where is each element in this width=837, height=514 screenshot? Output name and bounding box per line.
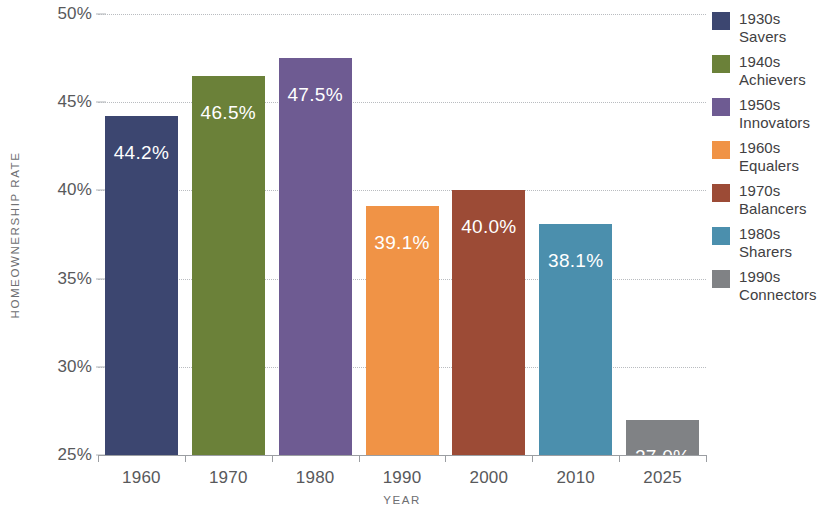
x-axis-line bbox=[98, 455, 706, 456]
legend-cohort: Sharers bbox=[739, 243, 792, 261]
x-tick-mark-1 bbox=[185, 455, 186, 462]
x-tick-label-1960: 1960 bbox=[122, 468, 161, 488]
bar-2000[interactable]: 40.0% bbox=[452, 190, 525, 455]
x-tick-mark-7 bbox=[706, 455, 707, 462]
bar-1990[interactable]: 39.1% bbox=[366, 206, 439, 455]
legend-item-1960s-equalers[interactable]: 1960sEqualers bbox=[712, 139, 837, 175]
legend-decade: 1930s bbox=[739, 10, 786, 28]
legend-cohort: Connectors bbox=[739, 286, 817, 304]
y-tick-label-35: 35% bbox=[34, 269, 92, 289]
legend-cohort: Equalers bbox=[739, 157, 799, 175]
legend-label: 1970sBalancers bbox=[739, 182, 807, 218]
x-tick-mark-3 bbox=[359, 455, 360, 462]
bar-value-label-1960: 44.2% bbox=[105, 142, 178, 164]
y-tick-label-40: 40% bbox=[34, 180, 92, 200]
bar-value-label-2010: 38.1% bbox=[539, 250, 612, 272]
legend-label: 1980sSharers bbox=[739, 225, 792, 261]
legend-decade: 1980s bbox=[739, 225, 792, 243]
legend-item-1970s-balancers[interactable]: 1970sBalancers bbox=[712, 182, 837, 218]
legend-cohort: Balancers bbox=[739, 200, 807, 218]
bar-value-label-2000: 40.0% bbox=[452, 216, 525, 238]
y-axis-title: HOMEOWNERSHIP RATE bbox=[2, 0, 28, 470]
x-tick-label-1980: 1980 bbox=[296, 468, 335, 488]
legend-swatch-icon-1990s bbox=[712, 270, 730, 288]
legend: 1930sSavers1940sAchievers1950sInnovators… bbox=[712, 10, 837, 311]
legend-decade: 1940s bbox=[739, 53, 806, 71]
legend-swatch-icon-1950s bbox=[712, 98, 730, 116]
legend-decade: 1960s bbox=[739, 139, 799, 157]
x-tick-mark-4 bbox=[445, 455, 446, 462]
legend-label: 1990sConnectors bbox=[739, 268, 817, 304]
legend-label: 1950sInnovators bbox=[739, 96, 810, 132]
legend-item-1990s-connectors[interactable]: 1990sConnectors bbox=[712, 268, 837, 304]
x-tick-label-2000: 2000 bbox=[470, 468, 509, 488]
y-tick-label-30: 30% bbox=[34, 357, 92, 377]
legend-item-1930s-savers[interactable]: 1930sSavers bbox=[712, 10, 837, 46]
y-tick-label-45: 45% bbox=[34, 92, 92, 112]
bar-2025[interactable]: 27.0% bbox=[626, 420, 699, 455]
y-axis-title-text: HOMEOWNERSHIP RATE bbox=[9, 151, 21, 318]
y-axis-ticks: 25%30%35%40%45%50% bbox=[30, 14, 92, 455]
bar-1980[interactable]: 47.5% bbox=[279, 58, 352, 455]
bar-value-label-1970: 46.5% bbox=[192, 102, 265, 124]
bars-layer: 44.2%46.5%47.5%39.1%40.0%38.1%27.0% bbox=[98, 14, 706, 455]
plot-area: 44.2%46.5%47.5%39.1%40.0%38.1%27.0% bbox=[98, 14, 706, 455]
x-axis-title: YEAR bbox=[98, 494, 706, 506]
x-tick-label-1990: 1990 bbox=[383, 468, 422, 488]
legend-item-1940s-achievers[interactable]: 1940sAchievers bbox=[712, 53, 837, 89]
x-tick-mark-5 bbox=[532, 455, 533, 462]
legend-cohort: Achievers bbox=[739, 71, 806, 89]
legend-item-1950s-innovators[interactable]: 1950sInnovators bbox=[712, 96, 837, 132]
legend-cohort: Savers bbox=[739, 28, 786, 46]
x-tick-mark-0 bbox=[98, 455, 99, 462]
legend-cohort: Innovators bbox=[739, 114, 810, 132]
homeownership-rate-bar-chart: HOMEOWNERSHIP RATE 25%30%35%40%45%50% 44… bbox=[0, 0, 837, 514]
legend-swatch-icon-1980s bbox=[712, 227, 730, 245]
legend-item-1980s-sharers[interactable]: 1980sSharers bbox=[712, 225, 837, 261]
legend-swatch-icon-1940s bbox=[712, 55, 730, 73]
bar-2010[interactable]: 38.1% bbox=[539, 224, 612, 455]
bar-value-label-1990: 39.1% bbox=[366, 232, 439, 254]
legend-swatch-icon-1960s bbox=[712, 141, 730, 159]
y-tick-label-25: 25% bbox=[34, 445, 92, 465]
legend-decade: 1950s bbox=[739, 96, 810, 114]
bar-value-label-1980: 47.5% bbox=[279, 84, 352, 106]
legend-label: 1960sEqualers bbox=[739, 139, 799, 175]
bar-1970[interactable]: 46.5% bbox=[192, 76, 265, 455]
x-tick-label-2025: 2025 bbox=[643, 468, 682, 488]
x-tick-mark-2 bbox=[272, 455, 273, 462]
x-tick-label-2010: 2010 bbox=[556, 468, 595, 488]
legend-swatch-icon-1970s bbox=[712, 184, 730, 202]
legend-label: 1930sSavers bbox=[739, 10, 786, 46]
legend-decade: 1990s bbox=[739, 268, 817, 286]
x-tick-label-1970: 1970 bbox=[209, 468, 248, 488]
x-tick-mark-6 bbox=[619, 455, 620, 462]
legend-swatch-icon-1930s bbox=[712, 12, 730, 30]
legend-decade: 1970s bbox=[739, 182, 807, 200]
y-tick-label-50: 50% bbox=[34, 4, 92, 24]
bar-1960[interactable]: 44.2% bbox=[105, 116, 178, 455]
legend-label: 1940sAchievers bbox=[739, 53, 806, 89]
